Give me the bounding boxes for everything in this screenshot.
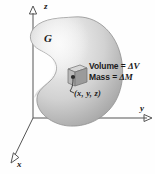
- axis-label-z: z: [44, 2, 48, 11]
- callout-volume-name: Volume: [89, 61, 118, 71]
- callout-volume: Volume = ΔV: [89, 62, 139, 71]
- figure-canvas: z y x G Volume = ΔV Mass = ΔM (x, y, z): [0, 0, 155, 174]
- axis-x: [11, 118, 33, 163]
- region-label-g: G: [44, 33, 52, 44]
- callout-mass: Mass = ΔM: [89, 73, 133, 82]
- callout-mass-name: Mass: [89, 72, 110, 82]
- volume-element-cube: [68, 65, 87, 86]
- callout-volume-value: ΔV: [128, 61, 139, 71]
- axis-z: [29, 6, 36, 118]
- axis-label-x: x: [17, 160, 22, 169]
- axis-label-y: y: [140, 104, 144, 113]
- callout-mass-value: ΔM: [119, 72, 132, 82]
- callout-volume-equals: =: [121, 61, 126, 71]
- sample-point-label: (x, y, z): [74, 89, 101, 98]
- callout-mass-equals: =: [112, 72, 117, 82]
- figure-graphics: [0, 0, 155, 174]
